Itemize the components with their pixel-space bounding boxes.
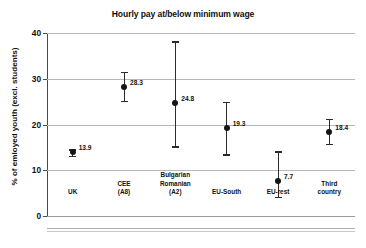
error-bar-cap-upper (223, 102, 230, 103)
data-point-marker[interactable] (121, 84, 127, 90)
y-tick-label: 20 (32, 120, 41, 130)
y-axis-title: % of emloyed youth (excl. students) (10, 22, 19, 212)
x-tick-label: Thirdcountry (299, 180, 359, 197)
error-bar-cap-lower (172, 146, 179, 147)
data-point-value-label: 28.3 (130, 78, 143, 85)
x-tick-label-line: (A8) (118, 188, 130, 195)
plot-area: 01020304013.9UK28.3CEE(A8)24.8BulgarianR… (47, 33, 355, 216)
figure-bottom-rule (47, 231, 355, 232)
error-bar-cap-lower (326, 144, 333, 145)
x-tick-label-line: Third (321, 180, 337, 187)
error-bar-cap-lower (69, 156, 76, 157)
error-bar-cap-upper (172, 41, 179, 42)
error-bar-cap-lower (275, 197, 282, 198)
axis-baseline (47, 228, 355, 229)
error-bar-cap-upper (326, 119, 333, 120)
error-bar-cap-upper (121, 72, 128, 73)
error-bar-cap-upper (275, 151, 282, 152)
data-point-marker[interactable] (172, 100, 178, 106)
data-point-marker[interactable] (275, 178, 281, 184)
x-tick-label-line: Bulgarian (161, 171, 190, 178)
y-tick-mark (43, 79, 47, 80)
x-tick-label-line: country (318, 188, 341, 195)
data-point-value-label: 24.8 (181, 94, 194, 101)
y-tick-mark (43, 216, 47, 217)
y-tick-label: 0 (36, 211, 41, 221)
x-tick-label-line: (A2) (169, 188, 181, 195)
x-tick-label-line: CEE (117, 180, 130, 187)
y-tick-label: 10 (32, 165, 41, 175)
y-tick-mark (43, 170, 47, 171)
y-tick-label: 30 (32, 74, 41, 84)
data-point-value-label: 19.3 (233, 119, 246, 126)
data-point-marker[interactable] (326, 129, 332, 135)
gridline (47, 125, 355, 126)
x-tick-label-line: Romanian (160, 180, 191, 187)
data-point-marker[interactable] (70, 149, 76, 155)
data-point-marker[interactable] (224, 125, 230, 131)
data-point-value-label: 13.9 (79, 144, 92, 151)
data-point-value-label: 7.7 (284, 172, 293, 179)
error-bar-cap-lower (121, 101, 128, 102)
error-bar (175, 41, 176, 146)
y-tick-label: 40 (32, 28, 41, 38)
x-tick-label-line: EU-rest (267, 188, 290, 195)
x-tick-label-line: UK (68, 188, 77, 195)
gridline (47, 33, 355, 34)
y-tick-mark (43, 33, 47, 34)
gridline (47, 79, 355, 80)
data-point-value-label: 18.4 (335, 123, 348, 130)
x-tick-label-line: EU-South (212, 188, 241, 195)
y-tick-mark (43, 125, 47, 126)
chart-title: Hourly pay at/below minimum wage (0, 9, 366, 19)
gridline (47, 216, 355, 217)
error-bar-cap-lower (223, 154, 230, 155)
chart-figure: Hourly pay at/below minimum wage % of em… (0, 0, 366, 248)
